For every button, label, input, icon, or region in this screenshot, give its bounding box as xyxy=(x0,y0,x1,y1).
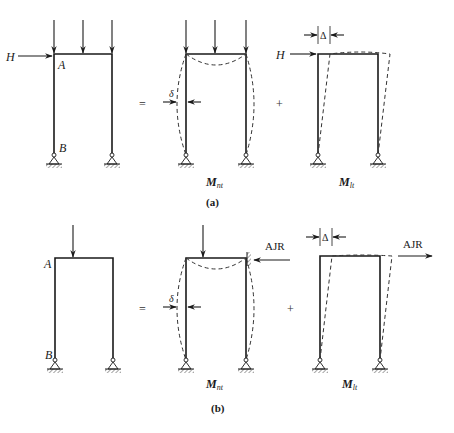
drift-label: Δ xyxy=(320,30,327,41)
frame-b-sway: Δ AJR Mlt xyxy=(306,228,432,392)
swayed-frame xyxy=(320,255,392,360)
equals-sign: = xyxy=(139,302,146,316)
frame-b-no-sway: AJR δ Mnt xyxy=(163,225,290,392)
plus-sign: + xyxy=(276,97,283,111)
joint-label-a: A xyxy=(57,58,66,72)
deflection-label: δ xyxy=(169,293,174,304)
pin-support-icon xyxy=(312,358,328,373)
caption-a: (a) xyxy=(206,196,219,209)
pin-support-icon xyxy=(104,153,120,168)
pin-support-icon xyxy=(178,153,194,168)
equals-sign: = xyxy=(139,97,146,111)
pin-support-icon xyxy=(46,153,62,168)
pin-support-icon xyxy=(178,358,194,373)
plus-sign: + xyxy=(287,302,294,316)
pin-support-icon xyxy=(310,153,326,168)
moment-label-lt: Mlt xyxy=(341,377,358,392)
portal-frame-members xyxy=(186,54,246,155)
moment-label-nt: Mnt xyxy=(205,175,224,190)
frame-a-original: H A B xyxy=(5,20,120,168)
pin-support-icon xyxy=(238,153,254,168)
swayed-frame xyxy=(318,52,390,155)
pin-support-icon xyxy=(372,358,388,373)
portal-frame-members xyxy=(186,258,246,360)
portal-frame-members xyxy=(320,256,380,360)
deflection-label: δ xyxy=(169,88,174,99)
pin-support-icon xyxy=(370,153,386,168)
joint-label-b: B xyxy=(59,141,67,155)
deflected-column-right xyxy=(246,258,254,360)
frame-b-original: A B xyxy=(43,225,121,373)
part-b: A B = AJR δ Mnt + xyxy=(43,225,432,415)
deflected-column-right xyxy=(246,54,254,155)
frame-a-no-sway: δ Mnt xyxy=(163,20,254,190)
part-a: H A B = δ Mnt + xyxy=(5,20,390,209)
deflected-beam xyxy=(186,54,246,65)
moment-label-lt: Mlt xyxy=(338,175,355,190)
joint-label-a: A xyxy=(43,257,52,271)
applied-force-label: AJR xyxy=(403,238,423,250)
drift-label: Δ xyxy=(322,232,329,243)
portal-frame-members xyxy=(55,258,113,360)
horizontal-load-label: H xyxy=(5,50,16,64)
pin-support-icon xyxy=(105,358,121,373)
portal-frame-members xyxy=(318,54,378,155)
joint-label-b: B xyxy=(45,348,53,362)
deflected-column-left xyxy=(177,54,186,155)
moment-label-nt: Mnt xyxy=(205,377,224,392)
pin-support-icon xyxy=(238,358,254,373)
deflected-column-left xyxy=(177,258,186,360)
diagram-canvas: H A B = δ Mnt + xyxy=(0,0,454,433)
deflected-beam xyxy=(186,258,246,269)
lateral-restraint-icon xyxy=(247,252,251,266)
caption-b: (b) xyxy=(211,402,225,415)
frame-a-sway: H Δ Mlt xyxy=(275,26,390,190)
restraint-label: AJR xyxy=(265,240,285,252)
horizontal-load-label: H xyxy=(275,48,286,62)
